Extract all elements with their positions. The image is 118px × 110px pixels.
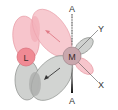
axis-a-top-label: A xyxy=(69,4,75,14)
gray-overlap xyxy=(29,72,41,96)
atom-l-label: L xyxy=(23,53,28,63)
axis-y-label: Y xyxy=(98,24,104,34)
atom-m-label: M xyxy=(68,52,76,62)
axis-x-label: X xyxy=(98,80,104,90)
orbital-diagram: L M A A Y X xyxy=(0,0,118,110)
axis-a-bottom-label: A xyxy=(69,96,75,106)
pink-overlap xyxy=(30,16,40,42)
